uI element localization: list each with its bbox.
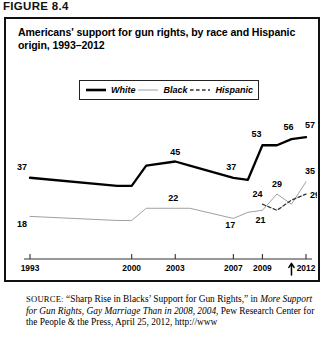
series-line-hispanic[interactable]: [262, 194, 306, 210]
source-prefix: SOURCE:: [26, 294, 64, 304]
data-label-hispanic-2009: 24: [252, 189, 262, 199]
data-label-white-2007: 37: [226, 162, 236, 172]
legend-label-hispanic: Hispanic: [215, 85, 253, 95]
legend-item-hispanic[interactable]: Hispanic: [189, 85, 253, 95]
axis-annotation-arrow-icon: [289, 263, 294, 275]
data-label-white-2003: 45: [170, 147, 180, 157]
data-label-hispanic-2012: 29: [310, 190, 317, 200]
data-label-white-2009: 53: [251, 129, 261, 139]
source-line2-plain: , Pew: [216, 306, 237, 316]
legend-swatch-hispanic-line: [189, 86, 211, 94]
legend-item-white[interactable]: White: [85, 85, 136, 95]
data-label-black-1993: 18: [17, 219, 27, 229]
x-axis-tick-label-2007: 2007: [224, 263, 243, 273]
data-label-white-1993: 37: [17, 162, 27, 172]
data-label-white-2011: 56: [283, 122, 293, 132]
source-line1-plain: “Sharp Rise in Blacks’ Support for Gun R…: [64, 294, 260, 304]
legend-label-white: White: [111, 85, 136, 95]
x-axis-tick-label-2012: 2012: [297, 263, 316, 273]
data-label-black-2009: 21: [255, 215, 265, 225]
chart-legend: White Black Hispanic: [79, 80, 259, 100]
legend-label-black: Black: [163, 85, 187, 95]
x-axis-tick-label-2000: 2000: [122, 263, 141, 273]
legend-swatch-black-line: [137, 86, 159, 94]
x-axis-tick-label-1993: 1993: [21, 263, 40, 273]
value-label-layer: 3745375356571822172129352429: [17, 120, 317, 230]
figure-number-label: FIGURE 8.4: [3, 0, 69, 12]
x-axis-tick-label-2009: 2009: [253, 263, 272, 273]
data-label-black-2012: 35: [305, 166, 315, 176]
x-axis-tick-label-2003: 2003: [166, 263, 185, 273]
line-chart-svg: 3745375356571822172129352429 19932000200…: [6, 103, 317, 281]
series-line-white[interactable]: [30, 137, 306, 186]
chart-title: Americans' support for gun rights, by ra…: [18, 26, 308, 53]
data-label-black-2010: 29: [272, 179, 282, 189]
data-label-black-2003: 22: [168, 193, 178, 203]
legend-item-black[interactable]: Black: [137, 85, 187, 95]
data-label-black-2007: 17: [225, 220, 235, 230]
source-line1-italic: More: [260, 294, 280, 304]
legend-swatch-white-line: [85, 86, 107, 94]
figure-box: Americans' support for gun rights, by ra…: [4, 17, 320, 282]
source-note: SOURCE: “Sharp Rise in Blacks’ Support f…: [26, 294, 322, 329]
series-layer: [30, 137, 306, 220]
x-axis-layer: 199320002003200720092012: [21, 254, 316, 275]
plot-area: 3745375356571822172129352429 19932000200…: [6, 103, 317, 281]
data-label-white-2012: 57: [305, 120, 315, 130]
